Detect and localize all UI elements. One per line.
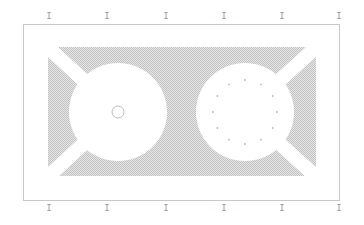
tick-top: I — [334, 12, 344, 21]
ring-dot — [228, 83, 230, 85]
tick-top: I — [44, 12, 54, 21]
ring-dot — [272, 95, 274, 97]
ring-dot — [216, 95, 218, 97]
ring-dot — [272, 127, 274, 129]
tick-bottom: I — [219, 204, 229, 213]
ring-dot — [244, 79, 246, 81]
ring-dot — [212, 111, 214, 113]
ring-dot — [228, 139, 230, 141]
tick-bottom: I — [44, 204, 54, 213]
ring-dot — [276, 111, 278, 113]
tick-bottom: I — [161, 204, 171, 213]
ring-dot — [244, 143, 246, 145]
tick-bottom: I — [102, 204, 112, 213]
right-disc — [196, 63, 294, 161]
ring-dot — [216, 127, 218, 129]
tick-bottom: I — [277, 204, 287, 213]
tick-top: I — [219, 12, 229, 21]
tick-top: I — [277, 12, 287, 21]
ring-dot — [260, 83, 262, 85]
left-disc — [69, 63, 167, 161]
tick-bottom: I — [334, 204, 344, 213]
ring-dot — [260, 139, 262, 141]
tick-top: I — [161, 12, 171, 21]
tick-top: I — [102, 12, 112, 21]
diagram-canvas — [0, 0, 364, 225]
